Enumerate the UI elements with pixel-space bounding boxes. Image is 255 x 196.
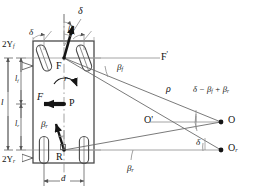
beta-r-lower-sub: r [131, 167, 133, 173]
beta-r-inner-sub: r [45, 123, 47, 129]
label-track-front: 2Yf [2, 40, 15, 50]
label-O-prime: O' [144, 115, 153, 125]
label-rho: ρ [166, 84, 171, 94]
turn-center-Or-dot [219, 148, 224, 153]
beta-rear-arc-marker [131, 150, 133, 160]
track-front-value: 2Y [2, 39, 13, 49]
label-lf: lf [15, 75, 19, 84]
label-F-prime: F' [161, 51, 168, 62]
label-yaw-rate-r: r [64, 74, 68, 83]
label-combined-angle: δ − βf + βr [193, 85, 229, 94]
label-delta-at-Or: δ [196, 138, 200, 147]
label-l-total: l [1, 98, 4, 107]
or-sub: r [235, 146, 237, 153]
label-d-width: d [61, 174, 66, 183]
label-track-rear: 2Yr [2, 155, 15, 165]
label-beta-r-lower: βr [127, 164, 134, 174]
label-delta-left-wheel: δ [29, 28, 33, 37]
dimension-lf-lr [16, 58, 26, 150]
dimension-l-total [4, 58, 13, 150]
track-front-sub: f [13, 43, 15, 49]
label-delta-right-wheel: δ [69, 28, 73, 37]
label-force-F: F [37, 92, 43, 102]
front-point-F-dot [62, 56, 66, 60]
track-rear-value: 2Y [2, 154, 13, 164]
label-beta-f-right: βf [117, 63, 123, 73]
turn-center-O-dot [219, 120, 224, 125]
combined-angle-arc-at-O [195, 110, 197, 131]
label-point-F: F [56, 61, 62, 71]
combined-sub2: r [227, 88, 229, 94]
o-prime-letter: O' [144, 114, 153, 125]
label-point-O: O [228, 115, 235, 125]
track-rear-sub: r [13, 158, 15, 164]
lr-sub: r [17, 123, 19, 128]
label-beta-r-inner: βr [41, 120, 48, 130]
figure-canvas: δ βf δ δ 2Yf 2Yr lf lr l d F P R F r βr … [0, 0, 255, 196]
label-point-P: P [69, 98, 75, 108]
label-delta-top: δ [78, 6, 83, 16]
beta-f-right-sub: f [121, 66, 123, 72]
combined-part1: δ − β [193, 84, 211, 94]
f-prime-mark: ' [167, 50, 168, 59]
label-point-Or: Or [228, 143, 238, 154]
rear-slip-vector [56, 124, 66, 150]
label-lr: lr [15, 120, 19, 129]
label-point-R: R [56, 152, 63, 162]
lf-sub: f [17, 78, 18, 83]
combined-part2: + β [213, 84, 227, 94]
